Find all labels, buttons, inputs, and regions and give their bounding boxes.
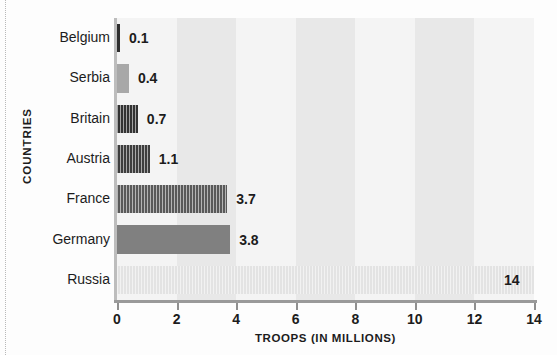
x-tick-mark: [117, 303, 119, 310]
x-tick-mark: [177, 303, 179, 310]
category-label-belgium: Belgium: [0, 29, 110, 45]
x-tick-label: 8: [351, 311, 359, 327]
bar-value-label: 0.7: [147, 111, 166, 127]
x-tick-mark: [236, 303, 238, 310]
bar-row: 0.4: [117, 64, 534, 92]
bar-britain[interactable]: [117, 105, 138, 133]
x-tick-label: 12: [467, 311, 483, 327]
category-label-group: BelgiumSerbiaBritainAustriaFranceGermany…: [0, 18, 110, 300]
x-tick-mark: [415, 303, 417, 310]
x-axis-title: TROOPS (IN MILLIONS): [117, 332, 534, 344]
bar-row: 0.7: [117, 105, 534, 133]
x-tick-mark: [296, 303, 298, 310]
bar-rows: 0.10.40.71.13.73.814: [117, 18, 534, 300]
x-tick-mark: [355, 303, 357, 310]
x-tick-mark: [474, 303, 476, 310]
bar-row: 14: [117, 266, 534, 294]
category-label-serbia: Serbia: [0, 69, 110, 85]
x-tick-label: 6: [292, 311, 300, 327]
bar-value-label: 14: [504, 272, 520, 288]
bar-value-label: 0.1: [129, 30, 148, 46]
x-tick-label: 2: [173, 311, 181, 327]
bar-germany[interactable]: [117, 225, 230, 253]
category-label-russia: Russia: [0, 271, 110, 287]
x-tick-label: 14: [526, 311, 542, 327]
chart-figure: COUNTRIES BelgiumSerbiaBritainAustriaFra…: [0, 0, 557, 355]
x-tick-label: 4: [232, 311, 240, 327]
bar-belgium[interactable]: [117, 24, 120, 52]
bar-value-label: 3.8: [239, 232, 258, 248]
bar-russia[interactable]: [117, 266, 534, 294]
bar-value-label: 1.1: [159, 151, 178, 167]
x-tick-label: 10: [407, 311, 423, 327]
category-label-britain: Britain: [0, 110, 110, 126]
bar-austria[interactable]: [117, 145, 150, 173]
bar-france[interactable]: [117, 185, 227, 213]
x-axis-ticks: 02468101214: [117, 303, 534, 329]
bar-row: 1.1: [117, 145, 534, 173]
x-tick-label: 0: [113, 311, 121, 327]
category-label-austria: Austria: [0, 150, 110, 166]
bar-value-label: 0.4: [138, 70, 157, 86]
category-label-germany: Germany: [0, 231, 110, 247]
bar-value-label: 3.7: [236, 191, 255, 207]
bar-serbia[interactable]: [117, 64, 129, 92]
bar-row: 0.1: [117, 24, 534, 52]
category-label-france: France: [0, 190, 110, 206]
bar-row: 3.8: [117, 225, 534, 253]
bar-row: 3.7: [117, 185, 534, 213]
plot-area: 0.10.40.71.13.73.814: [117, 18, 534, 300]
x-tick-mark: [534, 303, 536, 310]
